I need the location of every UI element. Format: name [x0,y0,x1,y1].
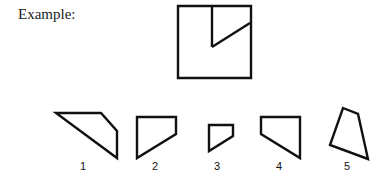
figure-canvas [0,0,387,179]
answer-options [56,108,368,159]
option-label-5: 5 [337,160,357,172]
option-shape-1[interactable] [56,113,117,158]
example-diagonal-line [212,23,250,47]
option-shape-3[interactable] [209,125,233,151]
option-shape-2[interactable] [137,117,176,158]
option-label-3: 3 [207,160,227,172]
option-label-1: 1 [73,160,93,172]
option-shape-5[interactable] [330,108,368,159]
example-figure [178,6,251,78]
option-shape-4[interactable] [261,117,300,158]
example-square [178,6,251,78]
option-label-4: 4 [269,160,289,172]
option-label-2: 2 [145,160,165,172]
